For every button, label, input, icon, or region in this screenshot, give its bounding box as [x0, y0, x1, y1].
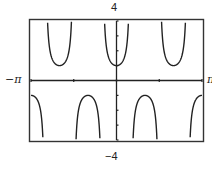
graph-canvas	[0, 0, 212, 170]
x-max-label: π	[207, 74, 212, 86]
axes	[31, 21, 202, 140]
x-min-label: −π	[5, 74, 21, 86]
y-max-label: 4	[111, 1, 117, 13]
y-min-label: −4	[105, 150, 118, 162]
